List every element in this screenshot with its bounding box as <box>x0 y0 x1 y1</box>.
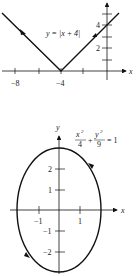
svg-text:+: + <box>88 136 93 145</box>
svg-text:2: 2 <box>100 129 103 134</box>
direction-arrow-icon <box>92 33 97 37</box>
svg-text:4: 4 <box>78 140 82 149</box>
svg-text:x: x <box>75 130 80 139</box>
bottom-chart: x y −1 1 2 1 −1 −2 x 2 4 + <box>10 123 125 274</box>
top-y-tick-label: 4 <box>96 21 100 30</box>
svg-text:2: 2 <box>81 129 84 134</box>
bottom-y-ticks <box>55 169 65 252</box>
svg-text:y: y <box>94 130 99 139</box>
top-x-tick-label: −8 <box>11 79 20 88</box>
top-chart: x −8 −4 2 4 y = |x + 4| <box>2 3 133 88</box>
top-x-tick-label: −4 <box>56 79 65 88</box>
bottom-y-tick-label: −1 <box>43 227 52 236</box>
top-x-label: x <box>128 67 133 76</box>
bottom-y-tick-label: 1 <box>48 186 52 195</box>
bottom-y-tick-label: −2 <box>43 248 52 257</box>
bottom-equation: x 2 4 + y 2 9 = 1 <box>75 129 118 149</box>
bottom-x-label: x <box>120 206 125 215</box>
svg-text:9: 9 <box>97 140 101 149</box>
bottom-x-tick-label: 1 <box>78 217 82 226</box>
bottom-x-tick-label: −1 <box>34 217 43 226</box>
abs-value-curve <box>2 13 119 71</box>
top-y-tick-label: 2 <box>96 44 100 53</box>
figure: x −8 −4 2 4 y = |x + 4| x <box>0 0 136 276</box>
svg-text:= 1: = 1 <box>107 136 118 145</box>
bottom-y-label: y <box>55 123 60 132</box>
direction-arrow-icon <box>20 29 26 35</box>
bottom-y-tick-label: 2 <box>48 165 52 174</box>
top-equation: y = |x + 4| <box>45 29 80 38</box>
